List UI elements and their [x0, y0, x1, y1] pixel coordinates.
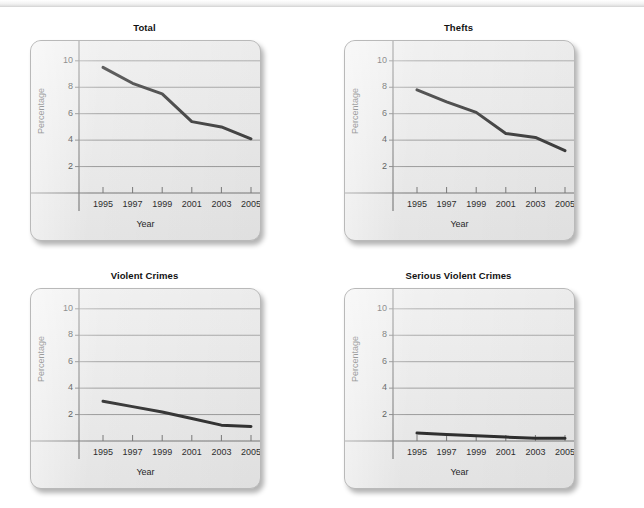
chart-cell-2: Thefts246810199519971999200120032005Year…: [344, 22, 573, 239]
y-tick-label: 8: [359, 81, 387, 91]
y-tick-label: 4: [359, 382, 387, 392]
gridlines: [393, 309, 574, 415]
y-tick-label: 6: [45, 356, 73, 366]
chart-title: Violent Crimes: [30, 270, 259, 281]
y-axis-title: Percentage: [350, 76, 360, 146]
chart-panel: 246810199519971999200120032005YearPercen…: [344, 288, 575, 489]
x-axis-title: Year: [345, 467, 574, 477]
y-tick-label: 4: [359, 134, 387, 144]
chart-cell-3: Violent Crimes24681019951997199920012003…: [30, 270, 259, 487]
y-tick-label: 6: [359, 108, 387, 118]
y-tick-label: 2: [45, 161, 73, 171]
x-tick-label: 2005: [233, 199, 261, 209]
x-tick-label: 2005: [547, 447, 575, 457]
x-tick-label: 2005: [233, 447, 261, 457]
y-tick-label: 2: [45, 409, 73, 419]
y-tick-label: 10: [45, 303, 73, 313]
y-tick-label: 10: [359, 303, 387, 313]
chart-title: Serious Violent Crimes: [344, 270, 573, 281]
y-tick-label: 8: [359, 329, 387, 339]
four-panel-line-chart-figure: Total246810199519971999200120032005YearP…: [0, 0, 644, 508]
data-line: [103, 401, 251, 426]
y-tick-label: 4: [45, 134, 73, 144]
chart-cell-1: Total246810199519971999200120032005YearP…: [30, 22, 259, 239]
gridlines: [79, 309, 260, 415]
x-axis-title: Year: [345, 219, 574, 229]
data-line: [103, 67, 251, 138]
y-tick-label: 10: [45, 55, 73, 65]
y-tick-label: 2: [359, 161, 387, 171]
y-tick-label: 10: [359, 55, 387, 65]
data-line: [417, 90, 565, 151]
y-tick-label: 8: [45, 329, 73, 339]
y-tick-label: 4: [45, 382, 73, 392]
y-axis-title: Percentage: [36, 324, 46, 394]
y-tick-label: 6: [45, 108, 73, 118]
chart-title: Total: [30, 22, 259, 33]
chart-cell-4: Serious Violent Crimes246810199519971999…: [344, 270, 573, 487]
x-tick-label: 2005: [547, 199, 575, 209]
gridlines: [393, 61, 574, 167]
data-line: [417, 433, 565, 438]
x-axis-title: Year: [31, 467, 260, 477]
chart-panel: 246810199519971999200120032005YearPercen…: [30, 288, 261, 489]
chart-title: Thefts: [344, 22, 573, 33]
x-axis-title: Year: [31, 219, 260, 229]
y-tick-label: 6: [359, 356, 387, 366]
y-tick-label: 8: [45, 81, 73, 91]
gridlines: [79, 61, 260, 167]
y-tick-label: 2: [359, 409, 387, 419]
y-axis-title: Percentage: [36, 76, 46, 146]
chart-panel: 246810199519971999200120032005YearPercen…: [30, 40, 261, 241]
chart-panel: 246810199519971999200120032005YearPercen…: [344, 40, 575, 241]
y-axis-title: Percentage: [350, 324, 360, 394]
